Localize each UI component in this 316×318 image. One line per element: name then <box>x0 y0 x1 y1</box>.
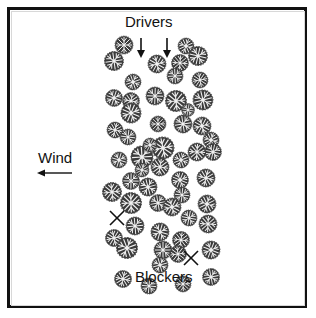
wind-label: Wind <box>38 149 72 166</box>
tree-icon <box>196 193 219 216</box>
blocker-mark-2 <box>184 251 198 265</box>
tree-icon <box>199 265 223 289</box>
wind-arrow <box>37 170 72 177</box>
tree-icon <box>115 36 133 54</box>
tree-icon <box>118 100 144 126</box>
tree-icon <box>146 53 168 75</box>
tree-icon <box>195 167 217 189</box>
blocker-mark-1 <box>110 211 124 225</box>
tree-icon <box>142 83 167 108</box>
hunting-drive-diagram: Drivers Wind Blockers <box>0 0 316 318</box>
tree-group <box>101 36 225 298</box>
tree-icon <box>199 215 218 234</box>
tree-icon <box>113 269 133 289</box>
blockers-label: Blockers <box>135 268 193 285</box>
tree-icon <box>103 87 126 110</box>
tree-icon <box>199 238 223 262</box>
tree-icon <box>150 157 171 178</box>
tree-icon <box>108 149 130 171</box>
tree-icon <box>148 220 172 244</box>
tree-icon <box>101 181 122 202</box>
tree-icon <box>187 142 206 161</box>
drivers-label: Drivers <box>125 13 173 30</box>
tree-icon <box>122 71 143 92</box>
driver-arrow-2 <box>163 38 171 58</box>
tree-icon <box>191 71 210 90</box>
tree-icon <box>150 116 166 132</box>
tree-icon <box>122 213 147 238</box>
driver-arrow-1 <box>137 38 145 58</box>
tree-icon <box>178 207 200 229</box>
